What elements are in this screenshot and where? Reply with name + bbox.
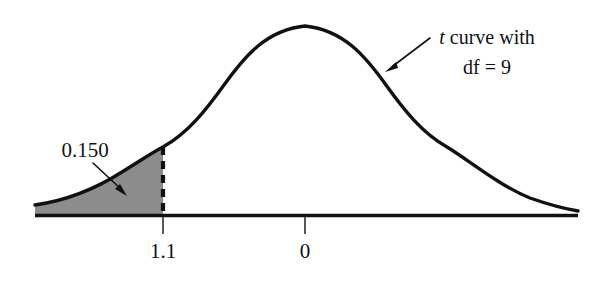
curve-arrow-head [385, 62, 398, 72]
curve-leader-line [393, 38, 430, 66]
t-distribution-figure: 1.1 0 0.150 t curve with df = 9 [0, 0, 603, 286]
chart-canvas: 1.1 0 0.150 t curve with df = 9 [0, 0, 603, 286]
tick-label-center: 0 [300, 239, 311, 263]
curve-annotation-line2: df = 9 [463, 56, 511, 78]
curve-annotation-line1: t curve with [439, 26, 535, 48]
curve-annotation-rest: curve with [445, 26, 535, 48]
area-label: 0.150 [61, 138, 108, 162]
tick-label-left: 1.1 [150, 239, 176, 263]
